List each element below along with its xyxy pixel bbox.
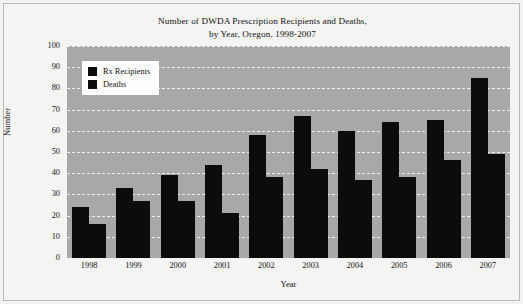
bar [444, 160, 461, 258]
legend: Rx RecipientsDeaths [82, 61, 159, 95]
chart-title-line1: Number of DWDA Prescription Recipients a… [158, 16, 367, 26]
bar-group [382, 46, 416, 258]
y-axis-tick-label: 70 [32, 105, 60, 114]
x-axis-ticks: 1998199920002001200220032004200520062007 [67, 261, 510, 270]
bar [355, 180, 372, 258]
bar [161, 175, 178, 258]
bar [382, 122, 399, 258]
y-axis-tick-label: 90 [32, 62, 60, 71]
bar [205, 165, 222, 258]
y-axis-tick-label: 50 [32, 147, 60, 156]
bar [294, 116, 311, 258]
x-axis-tick-label: 2000 [158, 261, 198, 270]
y-axis-tick-label: 10 [32, 232, 60, 241]
y-axis-tick-label: 60 [32, 126, 60, 135]
x-axis-tick-label: 2007 [468, 261, 508, 270]
bar [266, 177, 283, 258]
bar [72, 207, 89, 258]
bar [488, 154, 505, 258]
y-axis-tick-label: 20 [32, 211, 60, 220]
bar [427, 120, 444, 258]
y-axis-tick-label: 40 [32, 168, 60, 177]
chart-frame: Number of DWDA Prescription Recipients a… [3, 3, 520, 301]
y-axis-tick-label: 100 [32, 41, 60, 50]
bar [222, 213, 239, 258]
x-axis-tick-label: 1998 [69, 261, 109, 270]
bar-group [338, 46, 372, 258]
legend-swatch [88, 80, 97, 89]
x-axis-tick-label: 2003 [291, 261, 331, 270]
bar [311, 169, 328, 258]
bar [338, 131, 355, 258]
plot-area: Rx RecipientsDeaths [67, 46, 510, 258]
chart-subtitle: by Year, Oregon, 1998-2007 [4, 28, 521, 41]
bar [178, 201, 195, 258]
x-axis-tick-label: 2001 [202, 261, 242, 270]
legend-item: Deaths [88, 78, 150, 91]
y-axis-label: Number [2, 108, 12, 136]
x-axis-tick-label: 2004 [335, 261, 375, 270]
x-axis-tick-label: 2005 [379, 261, 419, 270]
bar [116, 188, 133, 258]
x-axis-tick-label: 2002 [246, 261, 286, 270]
y-axis-tick-label: 80 [32, 83, 60, 92]
chart-title: Number of DWDA Prescription Recipients a… [4, 15, 521, 40]
bar [133, 201, 150, 258]
legend-item: Rx Recipients [88, 65, 150, 78]
bar-group [294, 46, 328, 258]
legend-swatch [88, 67, 97, 76]
legend-label: Deaths [103, 80, 126, 89]
bar [471, 78, 488, 258]
y-axis-tick-label: 30 [32, 189, 60, 198]
bar-group [205, 46, 239, 258]
bar [399, 177, 416, 258]
x-axis-tick-label: 1999 [113, 261, 153, 270]
bar [249, 135, 266, 258]
bar-group [427, 46, 461, 258]
x-axis-tick-label: 2006 [424, 261, 464, 270]
bar-group [249, 46, 283, 258]
bar-group [161, 46, 195, 258]
bar-group [471, 46, 505, 258]
y-axis-tick-label: 0 [32, 253, 60, 262]
bar [89, 224, 106, 258]
x-axis-label: Year [67, 279, 510, 289]
legend-label: Rx Recipients [103, 67, 150, 76]
